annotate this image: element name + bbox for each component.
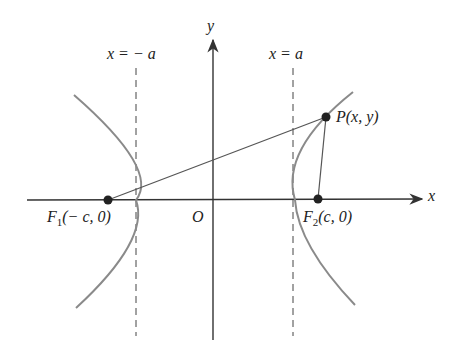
focus-2-coords: (c, 0) (318, 208, 352, 225)
point-p (322, 113, 331, 122)
right-directrix-label: x = a (269, 45, 303, 63)
left-directrix-label: x = − a (107, 45, 156, 63)
focus-1-label: F1(− c, 0) (47, 208, 111, 228)
origin-label: O (192, 208, 204, 226)
point-p-label: P(x, y) (336, 108, 379, 126)
focus-2-name: F (303, 208, 313, 225)
x-axis-label: x (428, 187, 435, 205)
focus-1-coords: (− c, 0) (62, 208, 111, 225)
focus-2-label: F2(c, 0) (303, 208, 352, 228)
hyperbola-diagram: y x O x = − a x = a P(x, y) F1(− c, 0) F… (0, 0, 461, 355)
x-axis (27, 199, 422, 200)
focus-1-point (104, 196, 113, 205)
focus-1-name: F (47, 208, 57, 225)
diagram-canvas (0, 0, 461, 355)
focus-2-point (314, 195, 323, 204)
segment-p-f2 (318, 117, 326, 199)
y-axis-label: y (207, 17, 214, 35)
